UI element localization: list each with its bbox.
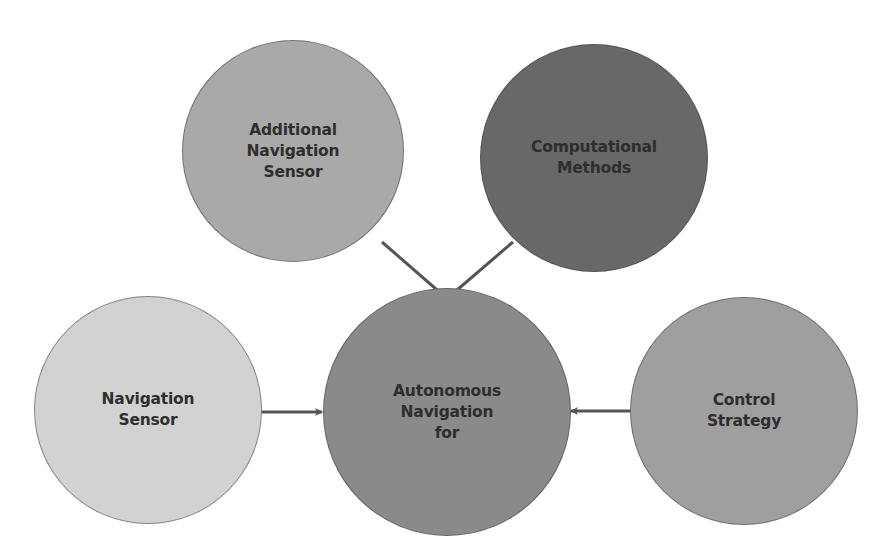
node-label-navigation-sensor: Navigation Sensor: [102, 389, 195, 431]
node-label-control-strategy: Control Strategy: [707, 390, 781, 432]
concept-diagram: Additional Navigation Sensor Computation…: [0, 0, 889, 560]
node-navigation-sensor: Navigation Sensor: [34, 296, 262, 524]
node-control-strategy: Control Strategy: [630, 297, 858, 525]
node-label-autonomous-navigation: Autonomous Navigation for: [393, 381, 501, 444]
node-computational-methods: Computational Methods: [480, 44, 708, 272]
node-autonomous-navigation: Autonomous Navigation for: [323, 288, 571, 536]
node-label-additional-navigation-sensor: Additional Navigation Sensor: [247, 120, 340, 183]
node-label-computational-methods: Computational Methods: [531, 137, 657, 179]
node-additional-navigation-sensor: Additional Navigation Sensor: [182, 40, 404, 262]
